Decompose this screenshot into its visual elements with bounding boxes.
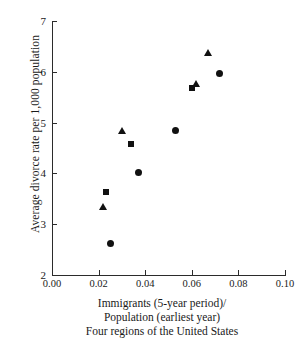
x-tick-label: 0.06	[170, 278, 214, 289]
y-tick-mark	[52, 72, 57, 73]
caption-line-2: Population (earliest year)	[38, 310, 286, 324]
y-tick-mark	[52, 224, 57, 225]
x-tick-label: 0.10	[263, 278, 295, 289]
y-tick-mark	[52, 123, 57, 124]
square-marker-icon	[103, 189, 109, 195]
scatter-plot-figure: 765432 0.000.020.040.060.080.10 Average …	[0, 0, 295, 356]
triangle-marker-icon	[192, 80, 200, 87]
square-marker-icon	[128, 141, 134, 147]
y-tick-mark	[52, 275, 57, 276]
x-tick-mark	[285, 270, 286, 275]
circle-marker-icon	[216, 70, 223, 77]
triangle-marker-icon	[99, 203, 107, 210]
x-tick-mark	[145, 270, 146, 275]
caption-line-3: Four regions of the United States	[38, 324, 286, 338]
x-tick-mark	[52, 270, 53, 275]
y-axis-line	[52, 21, 53, 276]
x-tick-label: 0.08	[216, 278, 260, 289]
x-axis-line	[52, 275, 286, 276]
x-axis-caption: Immigrants (5-year period)/ Population (…	[38, 296, 286, 338]
triangle-marker-icon	[118, 127, 126, 134]
x-tick-label: 0.00	[30, 278, 74, 289]
circle-marker-icon	[107, 240, 114, 247]
circle-marker-icon	[172, 127, 179, 134]
x-tick-mark	[238, 270, 239, 275]
y-tick-mark	[52, 173, 57, 174]
x-tick-mark	[99, 270, 100, 275]
x-tick-label: 0.04	[123, 278, 167, 289]
circle-marker-icon	[135, 169, 142, 176]
y-axis-title: Average divorce rate per 1,000 populatio…	[29, 21, 41, 247]
x-tick-label: 0.02	[77, 278, 121, 289]
caption-line-1: Immigrants (5-year period)/	[38, 296, 286, 310]
x-tick-mark	[192, 270, 193, 275]
y-tick-mark	[52, 21, 57, 22]
triangle-marker-icon	[204, 49, 212, 56]
